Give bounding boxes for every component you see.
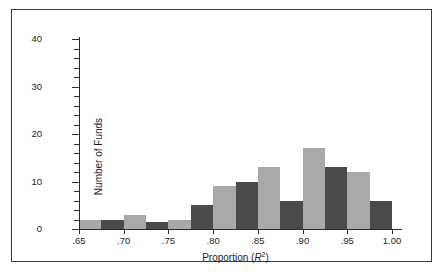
- y-axis-minor-tick: [74, 144, 79, 145]
- histogram-bar: [370, 201, 392, 230]
- y-axis-major-tick: [72, 87, 79, 88]
- x-axis-title-exponent: 2: [262, 251, 266, 258]
- y-axis-minor-tick: [74, 153, 79, 154]
- x-axis-tick-label: .70: [102, 236, 146, 246]
- x-axis-tick-label: 1.00: [370, 236, 414, 246]
- y-axis-minor-tick: [74, 49, 79, 50]
- histogram-bar: [168, 220, 190, 230]
- y-axis-minor-tick: [74, 58, 79, 59]
- x-axis-title-symbol: R: [254, 252, 261, 263]
- y-axis-minor-tick: [74, 68, 79, 69]
- y-axis-major-tick: [72, 39, 79, 40]
- x-axis-tick-label: .85: [236, 236, 280, 246]
- plot-area: Number of Funds: [79, 39, 392, 229]
- y-axis-minor-tick: [74, 191, 79, 192]
- y-axis-tick-label: 40: [2, 34, 42, 44]
- histogram-bar: [101, 220, 123, 230]
- histogram-bars: [79, 39, 392, 229]
- y-axis-major-tick: [72, 229, 79, 230]
- y-axis-minor-tick: [74, 220, 79, 221]
- x-axis-title: Proportion (R2): [79, 251, 392, 263]
- x-axis-tick-label: .90: [281, 236, 325, 246]
- y-axis-tick-label: 20: [2, 129, 42, 139]
- x-axis-tick: [347, 230, 348, 234]
- x-axis-tick: [168, 230, 169, 234]
- y-axis-line: [79, 37, 80, 230]
- y-axis-tick-label: 0: [2, 224, 42, 234]
- histogram-bar: [347, 172, 369, 229]
- histogram-bar: [325, 167, 347, 229]
- x-axis-tick: [392, 230, 393, 234]
- x-axis-tick: [258, 230, 259, 234]
- y-axis-major-tick: [72, 182, 79, 183]
- x-axis-tick: [124, 230, 125, 234]
- histogram-bar: [236, 182, 258, 230]
- histogram-bar: [124, 215, 146, 229]
- x-axis-line: [79, 229, 402, 230]
- y-axis-tick-label: 30: [2, 82, 42, 92]
- x-axis-tick: [303, 230, 304, 234]
- histogram-bar: [146, 222, 168, 229]
- y-axis-minor-tick: [74, 172, 79, 173]
- x-axis-tick-label: .65: [57, 236, 101, 246]
- y-axis-minor-tick: [74, 210, 79, 211]
- x-axis-tick-label: .95: [325, 236, 369, 246]
- x-axis-tick-label: .80: [191, 236, 235, 246]
- histogram-bar: [303, 148, 325, 229]
- y-axis-minor-tick: [74, 201, 79, 202]
- histogram-bar: [213, 186, 235, 229]
- y-axis-minor-tick: [74, 106, 79, 107]
- y-axis-title: Number of Funds: [93, 77, 104, 237]
- x-axis-tick-label: .75: [146, 236, 190, 246]
- histogram-bar: [258, 167, 280, 229]
- x-axis-tick: [213, 230, 214, 234]
- histogram-bar: [191, 205, 213, 229]
- y-axis-major-tick: [72, 134, 79, 135]
- x-axis-tick: [79, 230, 80, 234]
- y-axis-minor-tick: [74, 77, 79, 78]
- y-axis-tick-label: 10: [2, 177, 42, 187]
- y-axis-minor-tick: [74, 163, 79, 164]
- y-axis-minor-tick: [74, 96, 79, 97]
- y-axis-minor-tick: [74, 125, 79, 126]
- chart-figure: Number of Funds 010203040 .65.70.75.80.8…: [11, 9, 432, 262]
- histogram-bar: [280, 201, 302, 230]
- y-axis-minor-tick: [74, 115, 79, 116]
